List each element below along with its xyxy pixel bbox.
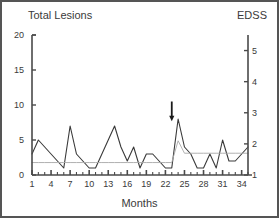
x-tick-label: 7	[62, 179, 78, 189]
figure-panel: Total Lesions EDSS 05101520 12345 147101…	[0, 0, 279, 218]
y-tick-label: 15	[6, 65, 24, 75]
x-tick-label: 34	[234, 179, 250, 189]
y2-tick-label: 1	[252, 170, 270, 180]
y2-tick-label: 3	[252, 108, 270, 118]
x-tick-label: 10	[81, 179, 97, 189]
x-axis-title: Months	[2, 197, 277, 209]
y-tick-label: 10	[6, 100, 24, 110]
x-tick-label: 28	[196, 179, 212, 189]
series-line-2	[32, 141, 248, 163]
x-tick-label: 1	[24, 179, 40, 189]
x-tick-label: 13	[100, 179, 116, 189]
annotations-group	[169, 102, 174, 122]
y-tick-label: 20	[6, 30, 24, 40]
x-tick-label: 31	[215, 179, 231, 189]
y2-tick-label: 2	[252, 139, 270, 149]
data-series-group	[32, 119, 248, 168]
y2-tick-label: 5	[252, 46, 270, 56]
y2-tick-label: 4	[252, 77, 270, 87]
y-tick-label: 5	[6, 135, 24, 145]
x-tick-label: 16	[119, 179, 135, 189]
y-tick-label: 0	[6, 170, 24, 180]
x-tick-label: 22	[157, 179, 173, 189]
series-line-1	[32, 119, 248, 168]
x-tick-label: 25	[176, 179, 192, 189]
x-tick-label: 19	[138, 179, 154, 189]
relapse-arrow-icon	[169, 102, 174, 122]
x-tick-label: 4	[43, 179, 59, 189]
